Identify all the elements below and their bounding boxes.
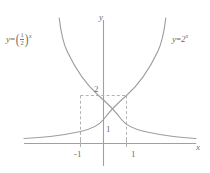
equation-two-to-the-x: y=2x — [172, 35, 188, 44]
fraction-numerator: 1 — [20, 32, 23, 39]
y-value-label-two: 2 — [94, 85, 99, 94]
y-value-label-one: 1 — [106, 125, 111, 134]
curve-two-to-the-x — [24, 18, 166, 139]
y-axis-label: y — [99, 13, 103, 22]
equation-right-exponent: x — [186, 33, 189, 39]
x-tick-label-neg-one: -1 — [74, 150, 82, 159]
x-axis-label: x — [196, 143, 200, 152]
plot-canvas — [0, 0, 210, 173]
equation-one-half-to-the-x: y= ( 1 2 ) x — [6, 32, 32, 47]
x-tick-label-pos-one: 1 — [131, 150, 136, 159]
exponential-functions-figure: y x y= ( 1 2 ) x y=2x 2 1 -1 1 — [0, 0, 210, 173]
right-paren-glyph: ) — [25, 32, 29, 47]
fraction-denominator: 2 — [20, 39, 23, 47]
fraction-stack: 1 2 — [20, 32, 24, 47]
equation-left-exponent: x — [29, 33, 32, 39]
fraction-one-half: ( 1 2 ) — [15, 32, 29, 47]
left-paren-glyph: ( — [16, 32, 20, 47]
